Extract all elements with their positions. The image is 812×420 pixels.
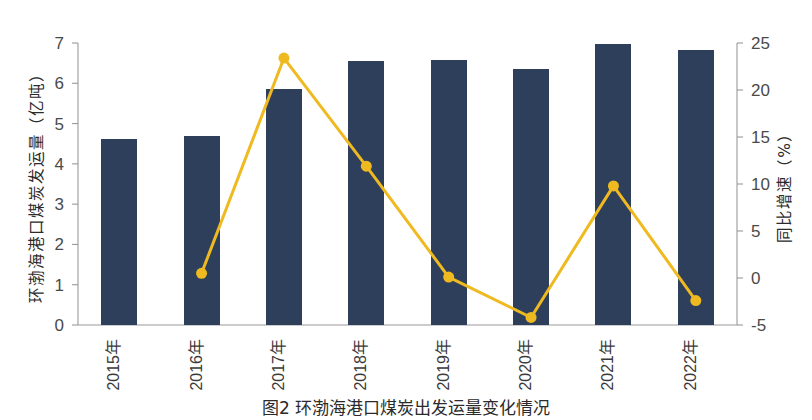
category-label: 2018年 [352, 339, 369, 391]
category-label: 2015年 [105, 339, 122, 391]
right-tick-label: 5 [751, 222, 760, 241]
right-axis-title-group: 同比增速（%） [776, 125, 794, 243]
bar [431, 60, 467, 325]
left-tick-label: 5 [55, 115, 64, 134]
right-tick-label: 15 [751, 128, 770, 147]
figure-caption: 图2 环渤海港口煤炭出发运量变化情况 [262, 398, 550, 418]
right-tick-label: 10 [751, 175, 770, 194]
bar [101, 139, 137, 325]
left-tick-label: 4 [55, 155, 64, 174]
bar [348, 61, 384, 325]
left-axis-title: 环渤海港口煤炭发运量（亿吨） [28, 65, 46, 303]
line-marker [361, 161, 372, 172]
chart-container: 环渤海港口煤炭发运量（亿吨） 同比增速（%） 01234567 -5051015… [0, 0, 812, 420]
bar-series [101, 44, 714, 325]
category-label: 2017年 [270, 339, 287, 391]
left-tick-label: 6 [55, 74, 64, 93]
left-tick-label: 7 [55, 34, 64, 53]
category-label: 2019年 [435, 339, 452, 391]
bar [513, 69, 549, 325]
line-marker [196, 268, 207, 279]
left-axis-title-group: 环渤海港口煤炭发运量（亿吨） [28, 65, 46, 303]
line-marker [526, 312, 537, 323]
line-marker [278, 53, 289, 64]
left-tick-label: 2 [55, 235, 64, 254]
right-tick-label: 0 [751, 269, 760, 288]
right-axis-ticks: -50510152025 [737, 34, 770, 335]
left-axis-ticks: 01234567 [55, 34, 78, 335]
category-label: 2016年 [188, 339, 205, 391]
line-marker [608, 180, 619, 191]
right-tick-label: -5 [751, 316, 766, 335]
right-tick-label: 20 [751, 81, 770, 100]
category-label: 2020年 [517, 339, 534, 391]
left-tick-label: 1 [55, 276, 64, 295]
left-tick-label: 3 [55, 195, 64, 214]
right-tick-label: 25 [751, 34, 770, 53]
right-axis-title: 同比增速（%） [776, 125, 794, 243]
category-label: 2021年 [599, 339, 616, 391]
category-labels: 2015年2016年2017年2018年2019年2020年2021年2022年 [105, 339, 699, 391]
line-marker [443, 272, 454, 283]
bar [184, 136, 220, 325]
left-tick-label: 0 [55, 316, 64, 335]
line-marker [690, 295, 701, 306]
bar [266, 89, 302, 325]
chart-svg: 环渤海港口煤炭发运量（亿吨） 同比增速（%） 01234567 -5051015… [0, 0, 812, 420]
category-label: 2022年 [682, 339, 699, 391]
